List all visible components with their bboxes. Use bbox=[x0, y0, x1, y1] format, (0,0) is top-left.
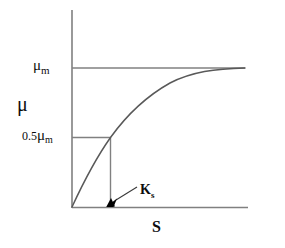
half-mu-max-subscript: m bbox=[45, 134, 53, 145]
monod-curve-figure: μm 0.5μm μ S Ks bbox=[0, 0, 285, 248]
ks-arrow-shaft bbox=[116, 187, 137, 200]
plot-canvas bbox=[0, 0, 285, 248]
ks-symbol: K bbox=[140, 182, 151, 197]
ks-annotation-label: Ks bbox=[140, 183, 154, 200]
half-mu-max-prefix: 0.5 bbox=[22, 129, 37, 143]
ks-subscript: s bbox=[151, 190, 155, 200]
y-tick-label-mu-max: μm bbox=[33, 58, 50, 76]
mu-max-symbol: μ bbox=[33, 57, 41, 73]
half-mu-max-symbol: μ bbox=[37, 127, 45, 143]
x-axis-title: S bbox=[152, 219, 161, 235]
mu-max-subscript: m bbox=[41, 64, 50, 76]
y-axis-title: μ bbox=[17, 94, 28, 114]
y-tick-label-half-mu-max: 0.5μm bbox=[22, 128, 53, 145]
